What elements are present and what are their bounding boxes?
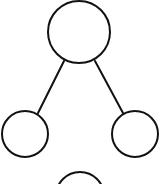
node-root bbox=[48, 1, 110, 63]
edge-root-to-left-child bbox=[38, 61, 64, 113]
node-left-child bbox=[2, 111, 48, 157]
edge-root-to-right-child bbox=[95, 61, 123, 113]
node-bottom-node bbox=[56, 172, 104, 184]
node-right-child bbox=[112, 111, 158, 157]
tree-diagram bbox=[0, 0, 160, 184]
edges bbox=[38, 61, 123, 113]
nodes bbox=[2, 1, 158, 184]
